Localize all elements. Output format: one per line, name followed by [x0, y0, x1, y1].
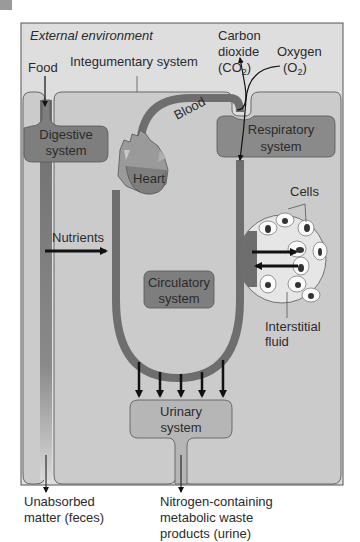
cells-label: Cells [290, 184, 319, 199]
co2-formula: (CO2) [218, 60, 251, 77]
respiratory-label-2: system [260, 139, 301, 154]
urinary-label-2: system [160, 420, 201, 435]
urine-label-2: metabolic waste [160, 510, 253, 525]
o2-label: Oxygen [277, 44, 322, 59]
heart-label: Heart [133, 171, 165, 186]
integumentary-label: Integumentary system [70, 54, 198, 69]
urinary-label-1: Urinary [160, 404, 202, 419]
co2-label-1: Carbon [218, 28, 261, 43]
urine-label-3: products (urine) [160, 526, 251, 541]
co2-label-2: dioxide [218, 44, 259, 59]
o2-formula: (O2) [283, 60, 307, 77]
respiratory-label-1: Respiratory [248, 122, 315, 137]
interstitial-label-1: Interstitial [265, 319, 321, 334]
circulatory-label-2: system [158, 291, 199, 306]
urine-label-1: Nitrogen-containing [160, 494, 273, 509]
external-environment-label: External environment [30, 28, 154, 43]
feces-label-1: Unabsorbed [24, 494, 95, 509]
digestive-label-2: system [45, 143, 86, 158]
circulatory-label-1: Circulatory [148, 275, 211, 290]
nutrients-label: Nutrients [52, 230, 105, 245]
corner-tab [0, 0, 12, 10]
body-systems-diagram: Digestive system Respiratory system Hear… [0, 0, 360, 542]
interstitial-label-2: fluid [265, 334, 289, 349]
digestive-label-1: Digestive [39, 127, 92, 142]
food-label: Food [28, 60, 58, 75]
feces-label-2: matter (feces) [24, 510, 104, 525]
